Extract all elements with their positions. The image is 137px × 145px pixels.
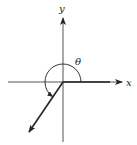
x-axis-label: x bbox=[126, 77, 132, 88]
y-axis-label: y bbox=[58, 3, 65, 14]
theta-label: θ bbox=[75, 56, 81, 67]
terminal-side-vector bbox=[29, 82, 63, 132]
angle-diagram: y x θ bbox=[0, 0, 137, 145]
